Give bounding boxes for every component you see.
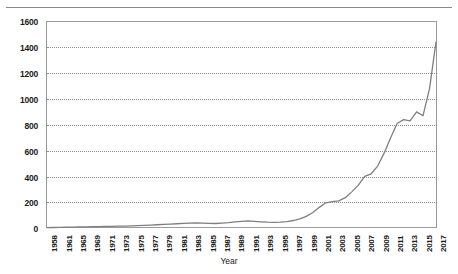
x-tick-label-1995: 1995 [281, 235, 290, 252]
x-tick-label-2013: 2013 [410, 235, 419, 252]
x-tick-label-1958: 1958 [50, 235, 59, 252]
x-tick-label-1981: 1981 [180, 235, 189, 252]
x-tick-label-1997: 1997 [295, 235, 304, 252]
x-tick-label-1999: 1999 [310, 235, 319, 252]
x-tick-label-2017: 2017 [439, 235, 448, 252]
data-series-line [47, 42, 436, 227]
x-tick-label-1971: 1971 [108, 235, 117, 252]
x-tick-label-1987: 1987 [223, 235, 232, 252]
x-tick-label-1973: 1973 [122, 235, 131, 252]
x-tick-label-1977: 1977 [151, 235, 160, 252]
x-tick-label-1969: 1969 [93, 235, 102, 252]
x-tick-label-1975: 1975 [137, 235, 146, 252]
x-tick-label-1993: 1993 [266, 235, 275, 252]
x-tick-label-1985: 1985 [209, 235, 218, 252]
x-tick-label-2005: 2005 [353, 235, 362, 252]
x-tick-label-1989: 1989 [237, 235, 246, 252]
x-tick-label-1983: 1983 [194, 235, 203, 252]
series-line-layer [0, 0, 458, 274]
x-tick-label-1991: 1991 [252, 235, 261, 252]
x-tick-label-2001: 2001 [324, 235, 333, 252]
x-tick-label-1961: 1961 [65, 235, 74, 252]
x-tick-label-2007: 2007 [367, 235, 376, 252]
x-tick-label-2015: 2015 [425, 235, 434, 252]
x-tick-label-1965: 1965 [79, 235, 88, 252]
x-tick-label-2003: 2003 [338, 235, 347, 252]
x-tick-label-2009: 2009 [382, 235, 391, 252]
line-chart: 1600 1400 1200 1000 800 600 400 200 0 19… [0, 0, 458, 274]
x-tick-label-1979: 1979 [165, 235, 174, 252]
x-axis-title: Year [0, 256, 458, 266]
x-tick-label-2011: 2011 [396, 236, 405, 252]
